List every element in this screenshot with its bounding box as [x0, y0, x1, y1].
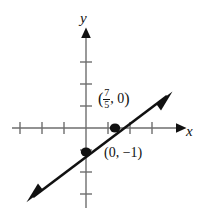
- y-axis-label: y: [80, 11, 87, 26]
- fraction-numerator: 7: [103, 88, 110, 99]
- x-intercept-fraction: 75: [103, 88, 110, 110]
- x-intercept-comma: ,: [110, 91, 114, 106]
- x-intercept-label: (75, 0): [98, 89, 130, 111]
- fraction-denominator: 5: [103, 99, 110, 111]
- point-y-intercept-dot: [81, 147, 91, 156]
- x-intercept-close-paren: ): [124, 90, 129, 107]
- point-x-intercept-dot: [110, 123, 120, 132]
- x-axis-label: x: [186, 124, 193, 139]
- y-intercept-label: (0, −1): [104, 146, 142, 160]
